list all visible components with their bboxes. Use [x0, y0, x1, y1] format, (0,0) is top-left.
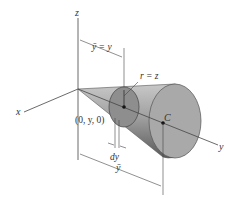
centroid-label: C — [164, 112, 171, 123]
cone-base — [149, 84, 201, 158]
dy-right-arrow — [120, 146, 126, 148]
z-axis-label: z — [74, 7, 79, 18]
cone-diagram: z x y ȳ = y r = z (0, y, 0) dy ȳ C — [0, 0, 236, 204]
ybar-label: ȳ — [115, 162, 121, 173]
ybar-dimension — [80, 154, 161, 186]
x-axis — [24, 89, 78, 112]
ybar-eq-y-label: ȳ = y — [91, 42, 112, 52]
x-axis-label: x — [15, 106, 21, 117]
point-label: (0, y, 0) — [75, 115, 104, 126]
diagram-svg: z x y ȳ = y r = z (0, y, 0) dy ȳ C — [0, 0, 236, 204]
dy-label: dy — [110, 152, 120, 162]
dy-left-arrow — [108, 143, 114, 145]
y-axis-label: y — [218, 141, 224, 152]
r-eq-z-label: r = z — [140, 71, 159, 81]
